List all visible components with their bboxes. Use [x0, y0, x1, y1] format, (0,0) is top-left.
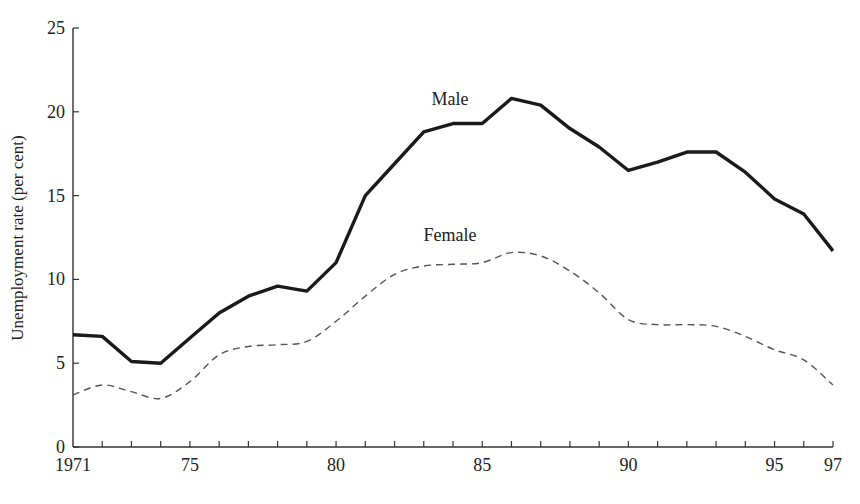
- y-tick-label: 20: [47, 102, 65, 122]
- unemployment-line-chart: 0510152025 1971758085909597 Unemployment…: [0, 0, 860, 504]
- y-tick-label: 25: [47, 18, 65, 38]
- x-tick-label: 95: [766, 455, 784, 475]
- y-tick-label: 10: [47, 269, 65, 289]
- series-labels: MaleFemale: [424, 89, 477, 245]
- y-tick-label: 0: [56, 437, 65, 457]
- y-axis-label: Unemployment rate (per cent): [8, 135, 27, 340]
- y-tick-label: 15: [47, 186, 65, 206]
- x-tick-label: 75: [181, 455, 199, 475]
- female-series-line: [73, 252, 833, 398]
- x-tick-label: 80: [327, 455, 345, 475]
- female-series-label: Female: [424, 225, 477, 245]
- series-layer: [73, 98, 833, 398]
- y-axis: 0510152025: [47, 18, 79, 457]
- x-tick-label: 1971: [55, 455, 91, 475]
- y-tick-label: 5: [56, 353, 65, 373]
- x-tick-label: 97: [824, 455, 842, 475]
- x-tick-label: 90: [619, 455, 637, 475]
- x-axis: 1971758085909597: [55, 441, 842, 475]
- x-tick-label: 85: [473, 455, 491, 475]
- male-series-label: Male: [432, 89, 469, 109]
